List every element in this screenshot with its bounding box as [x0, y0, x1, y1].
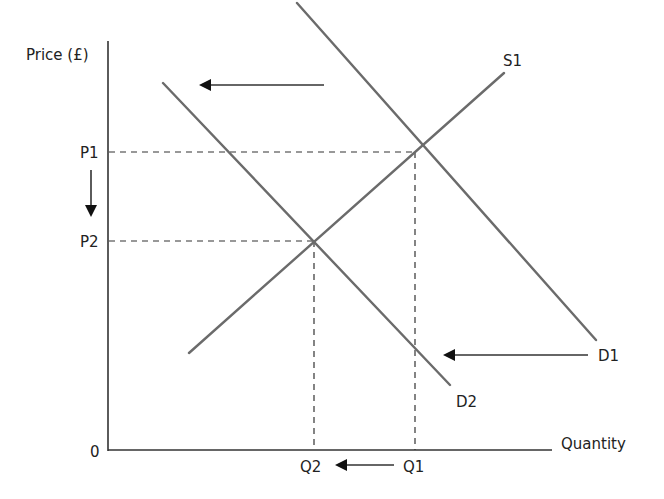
q1-label: Q1	[403, 458, 424, 476]
p1-label: P1	[80, 144, 99, 162]
x-axis-label: Quantity	[561, 435, 626, 453]
arrowhead-down-icon	[85, 205, 97, 217]
arrowhead-left-icon	[443, 349, 455, 361]
origin-label: 0	[90, 443, 100, 461]
s1-label: S1	[503, 52, 522, 70]
arrowhead-left-icon	[335, 459, 347, 471]
arrowhead-left-icon	[199, 79, 211, 91]
supply-demand-diagram: Price (£) Quantity 0 S1 D1 D2 P1 P2 Q2 Q…	[0, 0, 664, 499]
quantity-fall-arrow	[335, 459, 394, 471]
p2-label: P2	[80, 233, 99, 251]
q2-label: Q2	[300, 458, 321, 476]
demand-shift-arrow-top	[199, 79, 324, 91]
d1-label: D1	[598, 347, 619, 365]
price-fall-arrow	[85, 170, 97, 217]
y-axis-label: Price (£)	[26, 46, 89, 64]
d2-label: D2	[456, 393, 477, 411]
demand-curve-d1	[297, 3, 596, 340]
demand-shift-arrow-bottom	[443, 349, 588, 361]
supply-curve-s1	[189, 73, 504, 353]
